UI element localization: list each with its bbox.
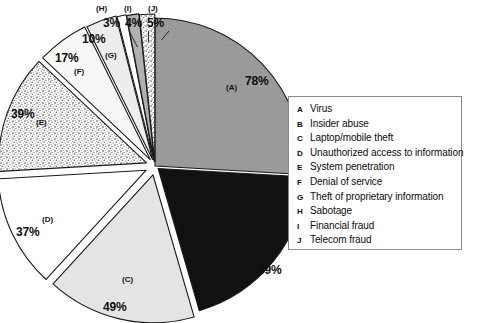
value-label-a: 78% — [245, 75, 268, 87]
legend-item-g: G Theft of proprietary information — [289, 191, 461, 206]
value-label-j: 5% — [147, 17, 164, 29]
value-label-e: 39% — [11, 108, 34, 120]
slice-key-e: (E) — [36, 119, 47, 127]
slice-key-d: (D) — [42, 216, 53, 224]
legend-label-c: Laptop/mobile theft — [310, 132, 393, 143]
legend-key-h: H — [297, 207, 310, 216]
legend-label-i: Financial fraud — [310, 220, 374, 231]
legend-item-d: D Unauthorized access to information — [289, 147, 461, 162]
value-label-b: 59% — [258, 264, 281, 276]
legend-item-i: I Financial fraud — [289, 220, 461, 235]
legend-label-g: Theft of proprietary information — [310, 191, 444, 202]
value-label-d: 37% — [16, 226, 39, 238]
slice-key-a: (A) — [226, 84, 237, 92]
legend-item-j: J Telecom fraud — [289, 234, 461, 249]
legend-key-a: A — [297, 105, 310, 114]
slice-key-c: (C) — [122, 276, 133, 284]
legend-label-b: Insider abuse — [310, 118, 369, 129]
legend: A Virus B Insider abuse C Laptop/mobile … — [288, 96, 462, 250]
legend-key-e: E — [297, 163, 310, 172]
value-label-i: 4% — [125, 17, 142, 29]
legend-label-e: System penetration — [310, 161, 394, 172]
legend-key-i: I — [297, 222, 310, 231]
slice-key-g: (G) — [105, 52, 117, 60]
legend-key-f: F — [297, 178, 310, 187]
legend-key-b: B — [297, 120, 310, 129]
legend-item-h: H Sabotage — [289, 205, 461, 220]
legend-item-e: E System penetration — [289, 161, 461, 176]
legend-label-h: Sabotage — [310, 205, 352, 216]
value-label-g: 10% — [82, 33, 105, 45]
legend-item-c: C Laptop/mobile theft — [289, 132, 461, 147]
pie-slice-a — [155, 18, 303, 174]
legend-key-g: G — [297, 193, 310, 202]
legend-item-b: B Insider abuse — [289, 118, 461, 133]
legend-key-j: J — [297, 236, 310, 245]
legend-label-f: Denial of service — [310, 176, 382, 187]
slice-key-h: (H) — [96, 5, 107, 13]
slice-key-i: (I) — [124, 5, 132, 13]
legend-item-a: A Virus — [289, 103, 461, 118]
slice-key-f: (F) — [74, 68, 84, 76]
slice-key-j: (J) — [148, 5, 158, 13]
legend-item-f: F Denial of service — [289, 176, 461, 191]
legend-label-d: Unauthorized access to information — [310, 147, 463, 158]
slice-key-b: (B) — [230, 240, 241, 248]
legend-key-c: C — [297, 134, 310, 143]
legend-key-d: D — [297, 149, 310, 158]
value-label-c: 49% — [103, 301, 126, 313]
legend-label-j: Telecom fraud — [310, 234, 372, 245]
value-label-h: 3% — [103, 17, 120, 29]
pie-chart: 78% 59% 49% 37% 39% 17% 10% 3% 4% 5% (A)… — [0, 0, 477, 323]
legend-label-a: Virus — [310, 103, 332, 114]
value-label-f: 17% — [55, 52, 78, 64]
